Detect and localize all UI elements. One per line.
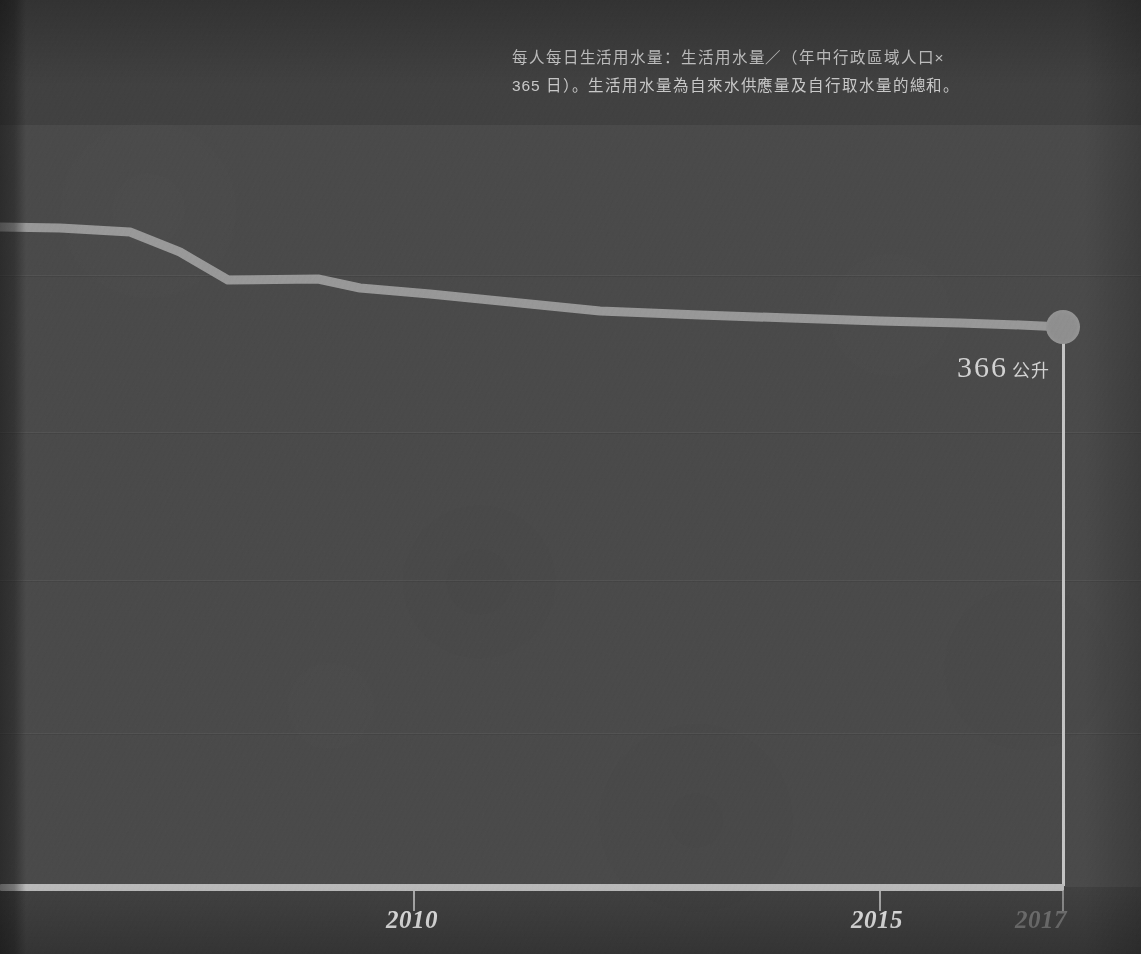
endpoint-marker[interactable] bbox=[1046, 310, 1080, 344]
data-line-series bbox=[0, 227, 1063, 327]
caption-line-2: 365 日）。生活用水量為自來水供應量及自行取水量的總和。 bbox=[512, 72, 1072, 100]
x-axis-label-2010: 2010 bbox=[386, 906, 438, 934]
value-callout-number: 366 bbox=[957, 350, 1008, 383]
x-axis-label-2017: 2017 bbox=[1015, 906, 1067, 934]
value-callout: 366公升 bbox=[830, 350, 1050, 384]
x-axis-label-2015: 2015 bbox=[851, 906, 903, 934]
value-callout-unit: 公升 bbox=[1012, 361, 1050, 381]
chart-caption: 每人每日生活用水量：生活用水量／（年中行政區域人口× 365 日）。生活用水量為… bbox=[512, 44, 1072, 100]
x-axis-line bbox=[0, 884, 1064, 891]
chart-plot-area bbox=[0, 0, 1141, 954]
chart-screenshot: 366公升 每人每日生活用水量：生活用水量／（年中行政區域人口× 365 日）。… bbox=[0, 0, 1141, 954]
endpoint-drop-line bbox=[1062, 338, 1065, 886]
caption-line-1: 每人每日生活用水量：生活用水量／（年中行政區域人口× bbox=[512, 44, 1072, 72]
